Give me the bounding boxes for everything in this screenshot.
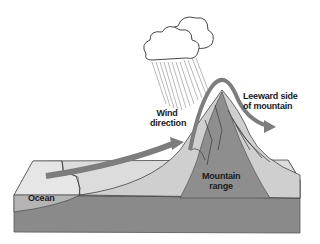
wind-direction-label: Wind direction (150, 108, 184, 128)
arrow-head-icon (264, 120, 276, 133)
ocean-label: Ocean (28, 193, 55, 203)
rain-cloud-icon (144, 17, 214, 60)
mountain-range-label: Mountain range (202, 171, 240, 191)
rain-streaks (152, 58, 208, 110)
leeward-side-label: Leeward side of mountain (243, 91, 298, 111)
